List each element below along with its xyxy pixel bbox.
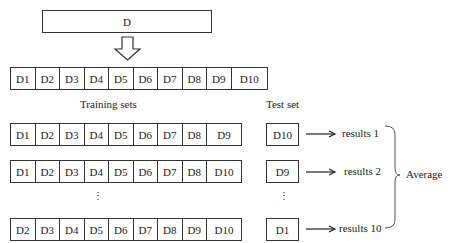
result-label-10: results 10 <box>339 222 381 234</box>
down-arrow-icon <box>115 37 140 60</box>
fold-cell: D5 <box>109 68 134 89</box>
fold-cell: D2 <box>36 124 61 145</box>
fold-cell: D8 <box>183 124 208 145</box>
fold-cell: D3 <box>60 68 85 89</box>
fold-cell: D4 <box>85 124 110 145</box>
ellipsis-training: ⋮ <box>93 190 103 201</box>
test-box-1: D10 <box>266 123 299 146</box>
fold-cell: D10 <box>232 68 268 89</box>
fold-cell: D9 <box>183 219 208 240</box>
connectors <box>0 0 452 243</box>
fold-cell: D1 <box>11 124 36 145</box>
average-label: Average <box>406 168 442 180</box>
result-label-2: results 2 <box>344 165 381 177</box>
fold-cell: D7 <box>158 124 183 145</box>
ellipsis-test: ⋮ <box>279 190 289 201</box>
fold-cell: D5 <box>109 161 134 182</box>
training-row-2: D1 D2 D3 D4 D5 D6 D7 D8 D10 <box>10 160 242 183</box>
fold-cell: D6 <box>134 68 159 89</box>
fold-cell: D7 <box>134 219 159 240</box>
result-label-1: results 1 <box>342 127 379 139</box>
fold-cell: D10 <box>207 161 241 182</box>
fold-cell: D7 <box>158 68 183 89</box>
training-sets-header: Training sets <box>80 98 137 110</box>
training-row-1: D1 D2 D3 D4 D5 D6 D7 D8 D9 <box>10 123 242 146</box>
fold-cell: D4 <box>85 68 110 89</box>
fold-cell: D8 <box>183 161 208 182</box>
fold-cell: D2 <box>11 219 36 240</box>
test-box-10: D1 <box>266 218 299 241</box>
folds-row: D1 D2 D3 D4 D5 D6 D7 D8 D9 D10 <box>10 67 268 90</box>
fold-cell: D10 <box>207 219 241 240</box>
fold-cell: D2 <box>36 161 61 182</box>
fold-cell: D3 <box>36 219 61 240</box>
fold-cell: D1 <box>11 68 36 89</box>
fold-cell: D3 <box>60 124 85 145</box>
fold-cell: D5 <box>109 124 134 145</box>
dataset-label: D <box>123 16 131 28</box>
training-row-10: D2 D3 D4 D5 D6 D7 D8 D9 D10 <box>10 218 242 241</box>
dataset-box: D <box>42 10 212 33</box>
fold-cell: D8 <box>183 68 208 89</box>
fold-cell: D7 <box>158 161 183 182</box>
test-set-header: Test set <box>266 98 299 110</box>
fold-cell: D8 <box>158 219 183 240</box>
fold-cell: D9 <box>207 124 241 145</box>
fold-cell: D2 <box>36 68 61 89</box>
brace-icon <box>385 126 400 228</box>
test-box-2: D9 <box>266 160 299 183</box>
fold-cell: D3 <box>60 161 85 182</box>
fold-cell: D9 <box>207 68 232 89</box>
fold-cell: D6 <box>134 161 159 182</box>
fold-cell: D1 <box>11 161 36 182</box>
fold-cell: D5 <box>85 219 110 240</box>
fold-cell: D6 <box>109 219 134 240</box>
fold-cell: D4 <box>60 219 85 240</box>
fold-cell: D4 <box>85 161 110 182</box>
fold-cell: D6 <box>134 124 159 145</box>
